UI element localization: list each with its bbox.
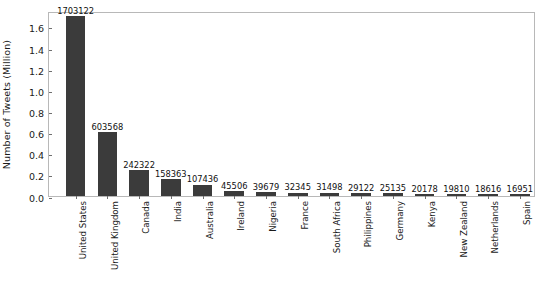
x-axis-tick-mark <box>488 196 489 199</box>
x-axis-tick-label-text: Philippines <box>364 201 373 247</box>
x-axis-tick-label-text: Canada <box>142 201 151 234</box>
y-axis-tick-label: 1.0 <box>29 87 49 98</box>
bar-value-label: 158363 <box>155 170 187 178</box>
x-axis-tick-mark <box>456 196 457 199</box>
y-axis-title-text: Number of Tweets (Million) <box>2 40 13 169</box>
x-axis-tick-label: United Kingdom <box>111 132 120 201</box>
x-axis-tick-mark <box>425 196 426 199</box>
y-axis-tick-mark <box>49 134 52 135</box>
x-axis-tick-label-text: United Kingdom <box>111 201 120 270</box>
bar-chart-figure: Number of Tweets (Million) 0.00.20.40.60… <box>0 0 542 281</box>
x-axis-tick-label: United States <box>79 143 88 201</box>
x-axis-tick-label-text: India <box>174 201 183 222</box>
y-axis-tick: 0.2 <box>29 171 49 183</box>
y-axis-tick: 0.0 <box>29 192 49 204</box>
x-axis-tick-label-text: Kenya <box>428 201 437 227</box>
y-axis-tick-mark <box>49 71 52 72</box>
y-axis-tick-label: 0.6 <box>29 129 49 140</box>
x-axis-tick-mark <box>393 196 394 199</box>
y-axis-tick-mark <box>49 198 52 199</box>
x-axis-tick-label: Australia <box>206 163 215 201</box>
x-axis-tick-label: India <box>174 180 183 201</box>
x-axis-tick-label: Spain <box>523 177 532 201</box>
plot-area: 0.00.20.40.60.81.01.21.41.6 170312260356… <box>48 12 535 197</box>
x-axis-tick-mark <box>171 196 172 199</box>
x-axis-tick-label-text: Spain <box>523 201 532 225</box>
y-axis-tick-label: 0.0 <box>29 193 49 204</box>
y-axis-tick-label: 1.4 <box>29 45 49 56</box>
x-axis-tick-label-text: Netherlands <box>491 201 500 253</box>
x-axis-tick-label-text: Australia <box>206 201 215 239</box>
x-axis-tick-mark <box>107 196 108 199</box>
y-axis-tick: 1.6 <box>29 23 49 35</box>
bar-value-label: 1703122 <box>57 7 94 15</box>
x-axis-tick-label-text: Nigeria <box>269 201 278 232</box>
y-axis-tick: 0.8 <box>29 107 49 119</box>
y-axis-tick-mark <box>49 155 52 156</box>
y-axis-tick-label: 0.4 <box>29 150 49 161</box>
y-axis-tick: 1.0 <box>29 86 49 98</box>
y-axis-tick-label: 1.6 <box>29 23 49 34</box>
y-axis-tick: 1.2 <box>29 65 49 77</box>
x-axis-tick-label: Kenya <box>428 175 437 201</box>
x-axis-tick-mark <box>361 196 362 199</box>
x-axis-tick-label-text: Germany <box>396 201 405 241</box>
x-axis-tick-label: Netherlands <box>491 149 500 201</box>
y-axis-tick: 0.6 <box>29 129 49 141</box>
x-axis-tick-mark <box>266 196 267 199</box>
x-axis-tick-mark <box>203 196 204 199</box>
y-axis-tick: 1.4 <box>29 44 49 56</box>
y-axis-tick-label: 0.2 <box>29 171 49 182</box>
x-axis-tick-label-text: United States <box>79 201 88 259</box>
y-axis-tick-mark <box>49 28 52 29</box>
y-axis-tick: 0.4 <box>29 150 49 162</box>
x-axis-tick-label: South Africa <box>333 149 342 201</box>
x-axis-tick-label-text: France <box>301 201 310 230</box>
x-axis-tick-mark <box>234 196 235 199</box>
x-axis-tick-mark <box>520 196 521 199</box>
x-axis-tick-label: New Zealand <box>460 145 469 201</box>
x-axis-tick-mark <box>329 196 330 199</box>
x-axis-tick-label-text: South Africa <box>333 201 342 253</box>
y-axis-tick-label: 0.8 <box>29 108 49 119</box>
x-axis-tick-label: Ireland <box>237 171 246 201</box>
x-axis-tick-label-text: New Zealand <box>460 201 469 257</box>
x-axis-tick-mark <box>76 196 77 199</box>
y-axis-tick-mark <box>49 113 52 114</box>
y-axis-tick-label: 1.2 <box>29 66 49 77</box>
bar-value-label: 603568 <box>92 123 124 131</box>
x-axis-tick-mark <box>298 196 299 199</box>
y-axis-tick-mark <box>49 176 52 177</box>
x-axis-tick-label: Philippines <box>364 155 373 201</box>
y-axis-tick-mark <box>49 50 52 51</box>
x-axis-tick-label: Nigeria <box>269 170 278 201</box>
x-axis-tick-label-text: Ireland <box>237 201 246 231</box>
x-axis-tick-label: France <box>301 172 310 201</box>
y-axis-tick-mark <box>49 92 52 93</box>
y-axis-title: Number of Tweets (Million) <box>0 12 14 197</box>
x-axis-tick-label: Canada <box>142 168 151 201</box>
x-axis-tick-label: Germany <box>396 162 405 202</box>
x-axis-tick-mark <box>139 196 140 199</box>
